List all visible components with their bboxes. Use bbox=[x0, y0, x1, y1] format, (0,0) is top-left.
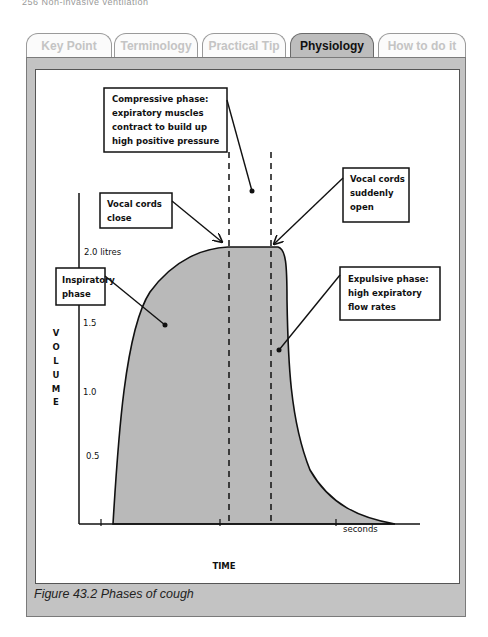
svg-text:Compressive phase:: Compressive phase: bbox=[112, 94, 208, 104]
svg-text:phase: phase bbox=[62, 289, 91, 299]
svg-text:high positive pressure: high positive pressure bbox=[112, 136, 220, 146]
annotation-vocal-cords-open: Vocal cords suddenly open bbox=[274, 168, 409, 244]
svg-text:M: M bbox=[52, 384, 60, 394]
y-tick-2-0: 2.0 litres bbox=[84, 247, 122, 257]
y-tick-1-5: 1.5 bbox=[83, 318, 97, 328]
svg-text:V: V bbox=[53, 328, 60, 338]
svg-text:Vocal cords: Vocal cords bbox=[107, 199, 162, 209]
svg-text:Expulsive phase:: Expulsive phase: bbox=[348, 274, 429, 284]
svg-text:high expiratory: high expiratory bbox=[348, 288, 422, 298]
annotation-expulsive-phase: Expulsive phase: high expiratory flow ra… bbox=[277, 267, 441, 353]
annotation-vocal-cords-close: Vocal cords close bbox=[100, 193, 222, 242]
svg-text:U: U bbox=[53, 370, 60, 380]
svg-text:Vocal cords: Vocal cords bbox=[350, 174, 405, 184]
svg-text:contract to build up: contract to build up bbox=[112, 122, 207, 132]
y-tick-1-0: 1.0 bbox=[83, 387, 97, 397]
y-axis-label: V O L U M E bbox=[52, 328, 60, 407]
svg-text:flow rates: flow rates bbox=[348, 302, 396, 312]
annotation-compressive-phase: Compressive phase: expiratory muscles co… bbox=[104, 88, 255, 194]
svg-text:close: close bbox=[107, 213, 132, 223]
x-axis-label: TIME bbox=[212, 561, 235, 571]
y-tick-0-5: 0.5 bbox=[86, 451, 100, 461]
svg-text:L: L bbox=[53, 356, 59, 366]
svg-text:E: E bbox=[53, 397, 59, 407]
x-unit-label: seconds bbox=[343, 524, 378, 534]
svg-text:Inspiratory: Inspiratory bbox=[62, 275, 115, 285]
cough-phases-diagram: 2.0 litres 1.5 1.0 0.5 V O L U M E secon… bbox=[0, 0, 488, 637]
svg-text:open: open bbox=[350, 202, 374, 212]
svg-text:suddenly: suddenly bbox=[350, 188, 394, 198]
svg-text:expiratory muscles: expiratory muscles bbox=[112, 108, 204, 118]
svg-text:O: O bbox=[52, 342, 59, 352]
